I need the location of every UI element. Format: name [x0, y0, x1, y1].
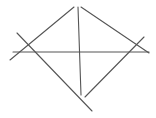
line-sketch-diagram [0, 0, 156, 118]
